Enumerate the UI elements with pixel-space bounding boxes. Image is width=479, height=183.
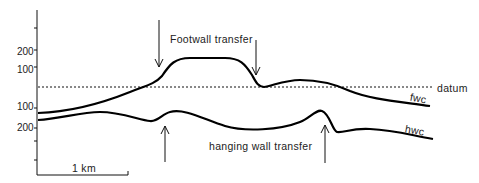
hanging-wall-transfer-arrow-right <box>321 125 329 163</box>
cross-section-diagram: 200 100 100 200 Footwall transfer hangin… <box>0 0 479 183</box>
datum-label: datum <box>437 82 468 94</box>
footwall-transfer-label: Footwall transfer <box>170 33 253 45</box>
axis-label-upper-100: 100 <box>17 64 34 75</box>
footwall-transfer-arrow-left <box>155 20 163 67</box>
diagram-graphics <box>0 0 479 183</box>
axis-label-lower-100: 100 <box>17 101 34 112</box>
hanging-wall-transfer-label: hanging wall transfer <box>209 140 312 152</box>
footwall-transfer-arrow-right <box>252 40 260 75</box>
scale-bar-label: 1 km <box>72 162 96 174</box>
fwc-line <box>38 58 430 113</box>
axis-label-upper-200: 200 <box>17 46 34 57</box>
axis-label-lower-200: 200 <box>17 122 34 133</box>
hwc-line <box>38 111 433 139</box>
hanging-wall-transfer-arrow-left <box>161 126 169 162</box>
